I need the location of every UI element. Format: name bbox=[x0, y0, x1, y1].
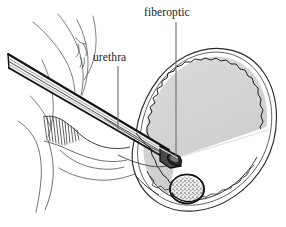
bladder-stone bbox=[170, 175, 204, 204]
cystoscopy-figure: fiberoptic urethra bbox=[0, 0, 286, 227]
label-urethra: urethra bbox=[93, 51, 126, 63]
illustration-canvas bbox=[0, 0, 286, 227]
label-fiberoptic: fiberoptic bbox=[144, 6, 190, 18]
